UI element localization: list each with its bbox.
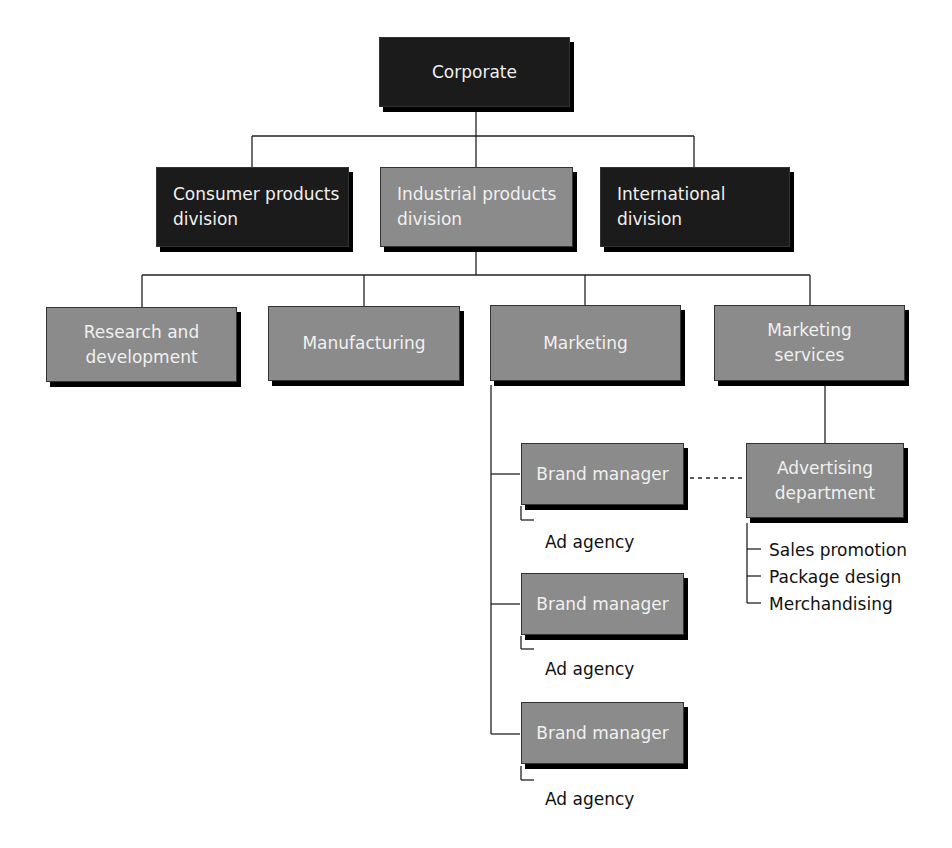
division-label-line2: division bbox=[173, 207, 238, 232]
division-label-line1: Industrial products bbox=[397, 182, 556, 207]
brand-manager-label: Brand manager bbox=[536, 592, 668, 617]
ad-agency-label-3: Ad agency bbox=[545, 787, 634, 811]
advertising-label-line2: department bbox=[775, 481, 876, 506]
department-label-line1: Manufacturing bbox=[302, 331, 425, 356]
brand-manager-box-3: Brand manager bbox=[521, 702, 684, 764]
brand-manager-box-2: Brand manager bbox=[521, 573, 684, 635]
department-label-line2: services bbox=[775, 343, 845, 368]
department-label-line2: development bbox=[85, 345, 197, 370]
org-chart: Corporate Consumer products division Ind… bbox=[0, 0, 952, 848]
research-development-box: Research and development bbox=[46, 307, 237, 382]
advertising-department-box: Advertising department bbox=[746, 443, 904, 518]
division-label-line2: division bbox=[397, 207, 462, 232]
brand-manager-label: Brand manager bbox=[536, 721, 668, 746]
advertising-label-line1: Advertising bbox=[777, 456, 873, 481]
merchandising-label: Merchandising bbox=[769, 592, 893, 616]
manufacturing-box: Manufacturing bbox=[268, 306, 460, 381]
ad-agency-label-1: Ad agency bbox=[545, 530, 634, 554]
marketing-services-box: Marketing services bbox=[714, 305, 905, 381]
division-label-line2: division bbox=[617, 207, 682, 232]
brand-manager-label: Brand manager bbox=[536, 462, 668, 487]
division-label-line1: International bbox=[617, 182, 726, 207]
department-label-line1: Marketing bbox=[767, 318, 852, 343]
package-design-label: Package design bbox=[769, 565, 901, 589]
sales-promotion-label: Sales promotion bbox=[769, 538, 907, 562]
international-division-box: International division bbox=[600, 167, 790, 247]
division-label-line1: Consumer products bbox=[173, 182, 339, 207]
brand-manager-box-1: Brand manager bbox=[521, 443, 684, 505]
department-label-line1: Marketing bbox=[543, 331, 628, 356]
consumer-products-division-box: Consumer products division bbox=[156, 167, 349, 247]
connector-lines bbox=[0, 0, 952, 848]
department-label-line1: Research and bbox=[84, 320, 199, 345]
ad-agency-label-2: Ad agency bbox=[545, 657, 634, 681]
corporate-label: Corporate bbox=[432, 60, 517, 85]
industrial-products-division-box: Industrial products division bbox=[380, 167, 573, 247]
corporate-box: Corporate bbox=[379, 37, 570, 107]
marketing-box: Marketing bbox=[490, 305, 681, 381]
